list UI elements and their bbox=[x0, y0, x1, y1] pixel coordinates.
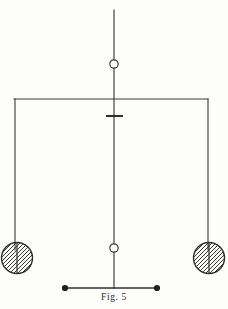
left-hatched-bob bbox=[0, 233, 78, 283]
figure-container: Fig. 5 bbox=[0, 0, 228, 309]
figure-drawing bbox=[0, 0, 228, 309]
right-hatched-bob bbox=[148, 233, 228, 283]
right-end-node bbox=[154, 285, 160, 291]
left-end-node bbox=[62, 285, 68, 291]
upper-pivot-ring bbox=[110, 60, 118, 68]
figure-caption: Fig. 5 bbox=[0, 292, 228, 302]
lower-pivot-ring bbox=[110, 244, 118, 252]
